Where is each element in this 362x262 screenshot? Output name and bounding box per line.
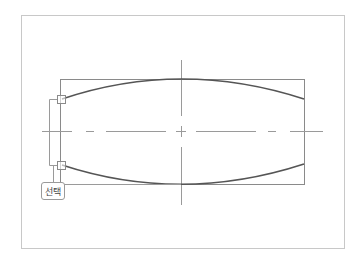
selection-bracket — [50, 100, 182, 185]
selection-handle-bottom[interactable] — [58, 162, 66, 170]
bottom-arc[interactable] — [62, 164, 304, 184]
drawing-canvas — [0, 0, 362, 262]
selection-callout-label: 선택 — [41, 182, 65, 200]
selection-handle-top[interactable] — [58, 96, 66, 104]
top-arc[interactable] — [62, 79, 304, 99]
